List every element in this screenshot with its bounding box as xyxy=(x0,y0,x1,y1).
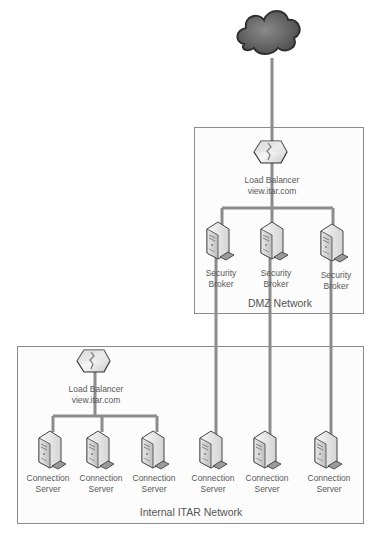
connection-server-label: Connection Server xyxy=(191,473,234,495)
label-line: Broker xyxy=(321,281,352,292)
security-broker-label: Security Broker xyxy=(321,270,352,292)
internet-cloud-icon xyxy=(237,11,299,54)
label-line: Server xyxy=(26,484,69,495)
label-line: view.itar.com xyxy=(245,186,300,197)
label-line: Security xyxy=(321,270,352,281)
label-line: Server xyxy=(191,484,234,495)
label-line: Server xyxy=(245,484,288,495)
label-line: Server xyxy=(307,484,350,495)
internal-load-balancer-label: Load Balancer view.itar.com xyxy=(69,384,124,406)
connection-server-label: Connection Server xyxy=(132,473,175,495)
internal-zone xyxy=(18,347,364,524)
label-line: Server xyxy=(132,484,175,495)
security-broker-label: Security Broker xyxy=(261,268,292,290)
connection-server-label: Connection Server xyxy=(79,473,122,495)
label-line: view.itar.com xyxy=(69,395,124,406)
dmz-load-balancer-icon xyxy=(254,141,287,163)
label-line: Connection xyxy=(132,473,175,484)
label-line: Security xyxy=(206,268,237,279)
internal-zone-label: Internal ITAR Network xyxy=(140,506,243,518)
label-line: Connection xyxy=(79,473,122,484)
label-line: Load Balancer xyxy=(69,384,124,395)
dmz-load-balancer-label: Load Balancer view.itar.com xyxy=(245,175,300,197)
internal-load-balancer-icon xyxy=(77,350,110,372)
label-line: Connection xyxy=(307,473,350,484)
security-broker-label: Security Broker xyxy=(206,268,237,290)
label-line: Load Balancer xyxy=(245,175,300,186)
connection-server-label: Connection Server xyxy=(307,473,350,495)
label-line: Connection xyxy=(26,473,69,484)
label-line: Server xyxy=(79,484,122,495)
connection-server-label: Connection Server xyxy=(245,473,288,495)
label-line: Broker xyxy=(261,279,292,290)
label-line: Connection xyxy=(191,473,234,484)
label-line: Connection xyxy=(245,473,288,484)
dmz-zone-label: DMZ Network xyxy=(248,297,312,309)
label-line: Security xyxy=(261,268,292,279)
connection-server-label: Connection Server xyxy=(26,473,69,495)
label-line: Broker xyxy=(206,279,237,290)
